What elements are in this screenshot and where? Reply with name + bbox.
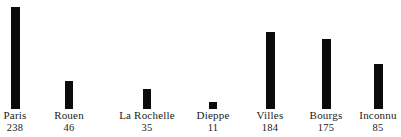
bar-chart: Paris Rouen La Rochelle Dieppe Villes Bo…	[0, 0, 401, 137]
value-label-dieppe: 11	[208, 121, 219, 134]
bar-dieppe	[209, 102, 217, 109]
value-labels-row: 238 46 35 11 184 175 85	[0, 121, 401, 135]
bar-inconnu	[374, 64, 383, 109]
value-label-la-rochelle: 35	[142, 121, 153, 134]
value-label-rouen: 46	[64, 121, 75, 134]
value-label-paris: 238	[7, 121, 23, 134]
bar-bourgs	[322, 39, 331, 109]
bar-paris	[11, 7, 20, 109]
bar-la-rochelle	[143, 89, 151, 109]
value-label-bourgs: 175	[318, 121, 334, 134]
value-label-inconnu: 85	[373, 121, 384, 134]
value-label-villes: 184	[262, 121, 278, 134]
plot-area	[0, 0, 401, 110]
bar-rouen	[65, 81, 73, 109]
bar-villes	[266, 32, 275, 109]
